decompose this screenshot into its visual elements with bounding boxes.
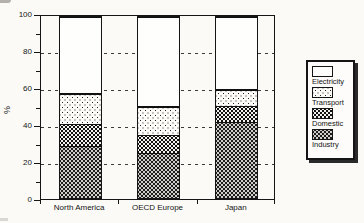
y-axis-minor-tick bbox=[36, 145, 40, 146]
x-axis-tick bbox=[118, 200, 119, 204]
scan-smudge bbox=[0, 218, 8, 221]
y-axis-minor-tick bbox=[36, 71, 40, 72]
bar-segment-industry bbox=[60, 146, 101, 198]
y-axis-label: % bbox=[2, 98, 18, 114]
bar-north-america bbox=[59, 16, 102, 199]
y-axis-tick bbox=[34, 126, 40, 127]
medium-dots-swatch-icon bbox=[312, 108, 333, 119]
y-axis-minor-tick bbox=[36, 182, 40, 183]
legend-label: Industry bbox=[312, 140, 349, 149]
white-swatch-icon bbox=[312, 66, 333, 77]
x-axis-category-label: OECD Europe bbox=[113, 203, 203, 213]
bar-segment-transport bbox=[216, 89, 257, 105]
bar-segment-domestic bbox=[60, 124, 101, 146]
y-axis-minor-tick bbox=[36, 108, 40, 109]
bar-segment-transport bbox=[60, 93, 101, 124]
y-axis-tick-label: 100 bbox=[4, 10, 32, 20]
scanned-stacked-bar-chart: % North AmericaOECD EuropeJapan020406080… bbox=[0, 0, 364, 223]
bar-segment-electricity bbox=[216, 17, 257, 89]
legend-label: Transport bbox=[312, 98, 349, 107]
legend-label: Domestic bbox=[312, 119, 349, 128]
bar-segment-electricity bbox=[60, 17, 101, 93]
y-axis-tick-label: 40 bbox=[4, 121, 32, 131]
legend-label: Electricity bbox=[312, 77, 349, 86]
x-axis-tick bbox=[197, 200, 198, 204]
bar-segment-transport bbox=[138, 106, 179, 135]
y-axis-tick-label: 20 bbox=[4, 158, 32, 168]
dark-dots-swatch-icon bbox=[312, 129, 333, 140]
scan-smudge bbox=[0, 0, 11, 3]
bar-segment-electricity bbox=[138, 17, 179, 106]
y-axis-tick-label: 60 bbox=[4, 84, 32, 94]
bar-oecd-europe bbox=[137, 16, 180, 199]
bar-japan bbox=[215, 16, 258, 199]
y-axis-tick bbox=[34, 200, 40, 201]
y-axis-tick bbox=[34, 52, 40, 53]
x-axis-category-label: North America bbox=[34, 203, 124, 213]
legend-item-transport: Transport bbox=[312, 87, 349, 107]
plot-area bbox=[40, 15, 275, 200]
light-dots-swatch-icon bbox=[312, 87, 333, 98]
y-axis-tick-label: 0 bbox=[4, 195, 32, 205]
legend-box: ElectricityTransportDomesticIndustry bbox=[306, 60, 355, 160]
y-axis-tick bbox=[34, 89, 40, 90]
bar-segment-industry bbox=[216, 122, 257, 198]
x-axis-tick bbox=[274, 200, 275, 204]
legend-item-domestic: Domestic bbox=[312, 108, 349, 128]
x-axis-tick bbox=[40, 200, 41, 204]
x-axis-category-label: Japan bbox=[191, 203, 281, 213]
y-axis-tick bbox=[34, 163, 40, 164]
y-axis-tick bbox=[34, 15, 40, 16]
bar-segment-domestic bbox=[216, 106, 257, 122]
bar-segment-domestic bbox=[138, 135, 179, 153]
bar-segment-industry bbox=[138, 153, 179, 198]
y-axis-tick-label: 80 bbox=[4, 47, 32, 57]
y-axis-minor-tick bbox=[36, 34, 40, 35]
legend-item-electricity: Electricity bbox=[312, 66, 349, 86]
legend-item-industry: Industry bbox=[312, 129, 349, 149]
